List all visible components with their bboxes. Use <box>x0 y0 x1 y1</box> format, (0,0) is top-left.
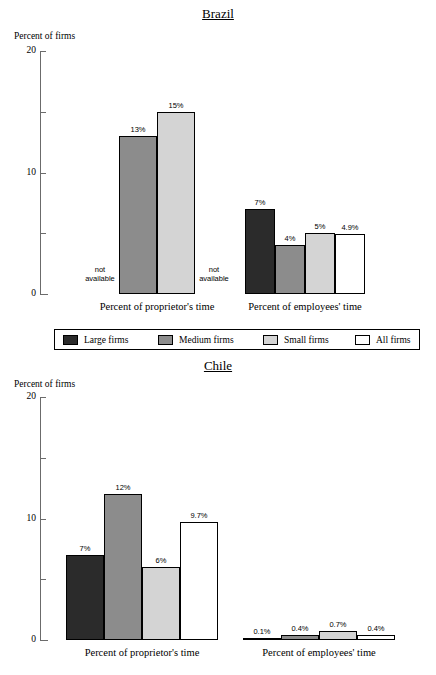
chart-panel-brazil: Brazil Percent of firms 01020notavailabl… <box>0 0 436 320</box>
y-axis-tick <box>41 458 46 459</box>
y-axis-tick-label: 0 <box>6 288 36 298</box>
x-axis-stub <box>41 640 48 641</box>
bar-medium-firms[interactable] <box>119 136 157 294</box>
y-axis-tick <box>41 579 46 580</box>
legend-item-all-firms[interactable]: All firms <box>355 330 411 349</box>
legend-swatch-icon <box>63 335 78 345</box>
bar-small-firms[interactable] <box>305 233 335 294</box>
bar-value-label: 7% <box>237 198 283 207</box>
bar-not-available-label: notavailable <box>79 266 121 283</box>
legend-item-small-firms[interactable]: Small firms <box>263 330 329 349</box>
y-axis-tick-label: 0 <box>6 634 36 644</box>
bar-medium-firms[interactable] <box>275 245 305 294</box>
bar-all-firms[interactable] <box>357 635 395 640</box>
y-axis-tick-label: 10 <box>6 167 36 177</box>
group-axis-label: Percent of employees' time <box>200 301 410 312</box>
plot-area-brazil: 01020notavailable13%15%notavailablePerce… <box>0 0 436 334</box>
legend: Large firmsMedium firmsSmall firmsAll fi… <box>54 329 420 350</box>
bar-small-firms[interactable] <box>142 567 180 640</box>
y-axis-tick <box>41 519 46 520</box>
legend-swatch-icon <box>158 335 173 345</box>
y-axis-tick <box>41 112 46 113</box>
legend-swatch-icon <box>355 335 370 345</box>
bar-large-firms[interactable] <box>245 209 275 294</box>
y-axis-tick-label: 20 <box>6 45 36 55</box>
bar-all-firms[interactable] <box>180 522 218 640</box>
y-axis-tick <box>41 397 46 398</box>
bar-medium-firms[interactable] <box>104 494 142 640</box>
plot-area-chile: 010207%12%6%9.7%Percent of proprietor's … <box>0 355 436 675</box>
bar-value-label: 12% <box>96 483 150 492</box>
legend-label: Medium firms <box>179 335 234 345</box>
x-axis-stub <box>41 294 48 295</box>
bar-value-label: 0.4% <box>349 624 403 633</box>
legend-item-large-firms[interactable]: Large firms <box>63 330 128 349</box>
y-axis-tick-label: 10 <box>6 513 36 523</box>
group-axis-label: Percent of employees' time <box>198 647 436 658</box>
y-axis-tick <box>41 173 46 174</box>
bar-large-firms[interactable] <box>66 555 104 640</box>
legend-label: Large firms <box>84 335 128 345</box>
bar-value-label: 9.7% <box>172 511 226 520</box>
bar-value-label: 4.9% <box>327 223 373 232</box>
bar-medium-firms[interactable] <box>281 635 319 640</box>
legend-label: Small firms <box>284 335 329 345</box>
legend-swatch-icon <box>263 335 278 345</box>
y-axis-tick <box>41 51 46 52</box>
y-axis-tick-label: 20 <box>6 391 36 401</box>
bar-small-firms[interactable] <box>157 112 195 294</box>
bar-not-available-label: notavailable <box>193 266 235 283</box>
bar-value-label: 15% <box>149 101 203 110</box>
y-axis-tick <box>41 233 46 234</box>
legend-label: All firms <box>376 335 411 345</box>
legend-item-medium-firms[interactable]: Medium firms <box>158 330 234 349</box>
bar-large-firms[interactable] <box>243 638 281 640</box>
bar-all-firms[interactable] <box>335 234 365 294</box>
chart-panel-chile: Chile Percent of firms 010207%12%6%9.7%P… <box>0 355 436 675</box>
